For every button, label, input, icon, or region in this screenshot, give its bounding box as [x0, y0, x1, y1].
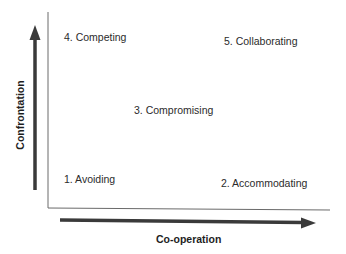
- x-axis-title: Co-operation: [156, 234, 221, 245]
- style-label-collaborating: 5. Collaborating: [224, 36, 298, 47]
- cooperation-arrow-icon: [60, 218, 316, 229]
- y-axis-title: Confrontation: [15, 80, 26, 149]
- style-label-avoiding: 1. Avoiding: [64, 174, 115, 185]
- style-label-compromising: 3. Compromising: [134, 105, 213, 116]
- style-label-accommodating: 2. Accommodating: [221, 178, 307, 189]
- conflict-styles-diagram: Confrontation Co-operation 4. Competing …: [0, 0, 346, 254]
- style-label-competing: 4. Competing: [64, 32, 126, 43]
- confrontation-arrow-icon: [30, 25, 41, 190]
- x-axis-line: [48, 208, 330, 210]
